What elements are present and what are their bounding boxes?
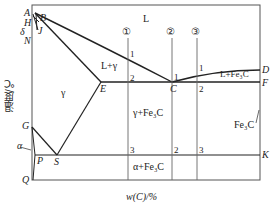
alloy1-mark-2: 2 <box>130 73 135 83</box>
point-e: E <box>100 84 106 94</box>
point-s: S <box>54 157 59 167</box>
region-l-fe3c: L+Fe₃C <box>220 69 249 79</box>
point-h: H <box>24 18 31 28</box>
alloy3-mark-3: 3 <box>199 145 204 155</box>
alloy3-mark-2: 2 <box>199 84 204 94</box>
point-c: C <box>170 84 177 94</box>
x-axis-label: w(C)/% <box>126 192 157 202</box>
alloy-marker-3: ③ <box>191 27 200 37</box>
alloy-marker-1: ① <box>122 27 131 37</box>
point-q: Q <box>22 175 29 185</box>
alloy1-mark-1: 1 <box>130 49 135 59</box>
alloy3-mark-1: 1 <box>199 63 204 73</box>
alloy-marker-2: ② <box>166 27 175 37</box>
region-liquid: L <box>143 14 149 24</box>
point-d: D <box>262 65 269 75</box>
region-gamma: γ <box>61 88 65 98</box>
point-alpha: α <box>17 141 22 151</box>
point-b: B <box>40 13 46 23</box>
region-fe3c: Fe₃C <box>234 120 254 130</box>
alloy2-mark-2: 2 <box>174 145 179 155</box>
point-j: J <box>38 26 42 36</box>
region-l-gamma: L+γ <box>101 61 117 71</box>
alloy1-mark-3: 3 <box>130 145 135 155</box>
region-alpha-fe3c: α+Fe₃C <box>133 162 164 172</box>
alloy2-mark-1: 1 <box>174 72 179 82</box>
y-axis-label: 温度/℃ <box>2 78 17 112</box>
point-f: F <box>262 78 268 88</box>
region-gamma-fe3c: γ+Fe₃C <box>133 108 163 118</box>
point-k: K <box>262 150 269 160</box>
point-n: N <box>24 36 31 46</box>
point-p: P <box>37 156 43 166</box>
point-g: G <box>22 121 29 131</box>
